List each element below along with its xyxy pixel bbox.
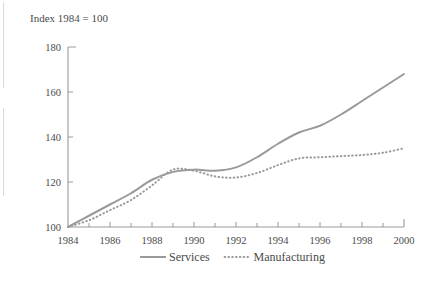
- x-tick-label: 1998: [352, 235, 373, 246]
- x-axis-tick-labels: 198419861988199019921994199619982000: [58, 235, 415, 246]
- x-tick-label: 2000: [394, 235, 415, 246]
- y-axis-tick-labels: 100120140160180: [45, 42, 61, 233]
- series-line-services: [68, 74, 404, 227]
- chart-legend[interactable]: ServicesManufacturing: [140, 250, 325, 264]
- y-tick-label: 180: [45, 42, 61, 53]
- series-lines: [68, 74, 404, 227]
- x-tick-label: 1992: [226, 235, 247, 246]
- x-tick-label: 1986: [100, 235, 121, 246]
- y-tick-label: 160: [45, 87, 61, 98]
- y-tick-label: 120: [45, 177, 61, 188]
- legend-label-services[interactable]: Services: [169, 250, 210, 264]
- legend-label-manufacturing[interactable]: Manufacturing: [254, 250, 325, 264]
- x-tick-label: 1990: [184, 235, 205, 246]
- series-line-manufacturing: [68, 148, 404, 227]
- x-tick-label: 1994: [268, 235, 290, 246]
- axis-note-label: Index 1984 = 100: [30, 12, 108, 24]
- chart-figure: Index 1984 = 100 100120140160180 1984198…: [0, 0, 434, 295]
- x-tick-label: 1988: [142, 235, 163, 246]
- y-tick-label: 100: [45, 222, 61, 233]
- x-tick-label: 1996: [310, 235, 331, 246]
- axis-tick-marks: [68, 92, 383, 227]
- line-chart: Index 1984 = 100 100120140160180 1984198…: [0, 0, 434, 295]
- y-tick-label: 140: [45, 132, 61, 143]
- x-tick-label: 1984: [58, 235, 80, 246]
